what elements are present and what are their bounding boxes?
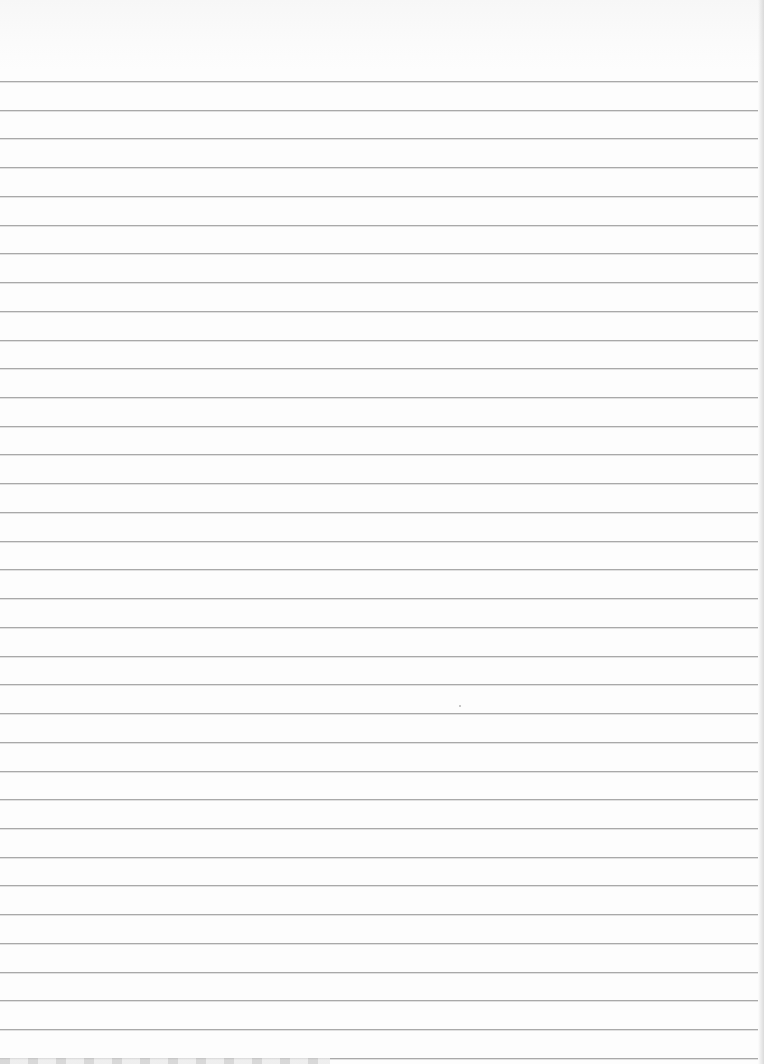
ruled-line [0,885,758,886]
ruled-line [0,914,758,915]
ruled-line [0,225,758,226]
ruled-line [0,311,758,312]
ruled-line [0,1029,758,1030]
ruled-line [0,368,758,369]
ruled-line [0,253,758,254]
ruled-line [0,598,758,599]
ruled-line [0,167,758,168]
bottom-edge-smudge [0,1058,330,1064]
ruled-line [0,569,758,570]
ruled-line [0,1000,758,1001]
ruled-lines [0,0,764,1064]
ruled-line [0,81,758,82]
ruled-line [0,627,758,628]
ruled-line [0,138,758,139]
ruled-line [0,483,758,484]
ruled-line [0,656,758,657]
ruled-line [0,857,758,858]
ruled-line [0,340,758,341]
ruled-line [0,541,758,542]
ruled-line [0,512,758,513]
scan-speck [459,705,461,707]
ruled-line [0,110,758,111]
ruled-line [0,943,758,944]
ruled-line [0,282,758,283]
ruled-line [0,684,758,685]
right-edge-shadow [758,0,764,1064]
ruled-line [0,742,758,743]
ruled-line [0,799,758,800]
ruled-line [0,454,758,455]
ruled-line [0,196,758,197]
ruled-line [0,828,758,829]
ruled-line [0,771,758,772]
ruled-line [0,397,758,398]
ruled-line [0,972,758,973]
ruled-line [0,426,758,427]
ruled-paper-page [0,0,764,1064]
ruled-line [0,713,758,714]
